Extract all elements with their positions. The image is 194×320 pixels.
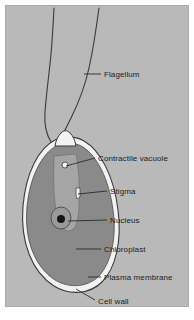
label-nucleus: Nucleus — [110, 216, 140, 225]
flagellum-left-icon — [45, 8, 54, 142]
contractile-vacuole-shape — [62, 162, 68, 168]
label-cell-wall: Cell wall — [98, 297, 129, 306]
label-flagellum: Flagellum — [104, 70, 140, 79]
label-chloroplast: Chloroplast — [104, 245, 146, 254]
nucleolus-shape — [57, 215, 65, 223]
figure-root: Flagellum Contractile vacuole Stigma Nuc… — [0, 0, 194, 320]
label-contractile-vacuole: Contractile vacuole — [98, 154, 168, 163]
papilla-shape — [55, 131, 76, 146]
diagram-panel: Flagellum Contractile vacuole Stigma Nuc… — [5, 5, 189, 307]
flagellum-right-icon — [59, 8, 99, 142]
label-stigma: Stigma — [110, 187, 136, 196]
label-plasma-membrane: Plasma membrane — [104, 273, 173, 282]
